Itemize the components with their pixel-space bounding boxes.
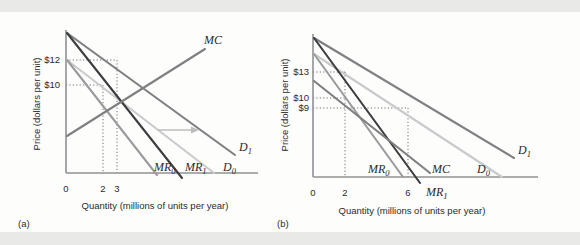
panel-a-label-d1: D1 <box>238 140 252 156</box>
panel-b-origin-label: 0 <box>310 187 315 198</box>
panel-a-xtick-0: 2 <box>100 183 105 194</box>
panel-a-shift-arrow <box>158 126 199 133</box>
panel-a-curve-mr1 <box>67 33 182 178</box>
panel-b-plot: $13 $10 $9 0 2 6 Price (dollars per unit… <box>290 12 580 232</box>
panel-b-label-mc: MC <box>431 162 451 176</box>
panel-a-x-axis-title: Quantity (millions of units per year) <box>82 200 229 211</box>
panel-b-curve-mr1 <box>314 38 420 183</box>
panel-a-label-d0: D0 <box>222 160 237 176</box>
panel-b-label-d1-base: D <box>517 143 527 157</box>
panel-a-label-mr0-base: MR <box>153 160 172 174</box>
panel-a-label-mr0: MR0 <box>153 160 176 176</box>
panel-b-guidelines <box>313 72 408 177</box>
panel-a-label-mr1: MR1 <box>184 160 207 176</box>
panel-b-ytick-2: $9 <box>298 102 309 113</box>
panel-b-label-d1: D1 <box>517 143 531 159</box>
panel-a-label-d0-sub: 0 <box>232 166 237 176</box>
panel-b-label-mr1-sub: 1 <box>443 191 447 201</box>
panel-b-xtick-0: 2 <box>342 187 347 198</box>
panel-b-xtick-1: 6 <box>405 187 410 198</box>
panel-b-label-mr1: MR1 <box>425 185 448 201</box>
panel-a-origin-label: 0 <box>63 183 68 194</box>
chart-panel-a: $12 $10 0 2 3 Price (dollars per unit) Q… <box>0 12 290 232</box>
panel-b-label-d0: D0 <box>476 162 491 178</box>
panel-b-ytick-0: $13 <box>293 66 309 77</box>
panel-a-y-axis-title: Price (dollars per unit) <box>31 58 42 151</box>
panel-b-letter: (b) <box>277 218 289 229</box>
panel-a-label-mc: MC <box>203 33 223 47</box>
panel-a-ytick-0: $12 <box>44 54 60 65</box>
panel-a-curve-mc <box>67 49 205 136</box>
panel-a-label-mr1-sub: 1 <box>202 166 206 176</box>
panel-a-letter: (a) <box>18 218 30 229</box>
panel-b-label-mr1-base: MR <box>425 185 444 199</box>
panel-b-label-mr0-base: MR <box>367 162 386 176</box>
panel-a-xtick-1: 3 <box>114 183 119 194</box>
panel-a-label-mr1-base: MR <box>184 160 203 174</box>
panel-b-y-axis-title: Price (dollars per unit) <box>279 59 290 152</box>
panel-b-curve-mc <box>314 81 430 173</box>
panel-a-label-d0-base: D <box>222 160 232 174</box>
panel-b-curve-d0 <box>314 54 502 177</box>
panel-a-curve-d0 <box>67 60 214 173</box>
panel-b-label-d1-sub: 1 <box>527 149 531 159</box>
figure-canvas: $12 $10 0 2 3 Price (dollars per unit) Q… <box>0 12 580 232</box>
panel-a-label-d1-base: D <box>238 140 248 154</box>
chart-panel-b: $13 $10 $9 0 2 6 Price (dollars per unit… <box>290 12 580 232</box>
panel-a-label-d1-sub: 1 <box>248 146 252 156</box>
panel-b-label-d0-base: D <box>476 162 486 176</box>
panel-a-curve-d1 <box>67 33 235 155</box>
panel-b-label-mr0: MR0 <box>367 162 390 178</box>
panel-a-ytick-1: $10 <box>44 79 60 90</box>
panel-a-plot: $12 $10 0 2 3 Price (dollars per unit) Q… <box>0 12 290 232</box>
panel-b-x-axis-title: Quantity (millions of units per year) <box>339 205 486 216</box>
panel-a-guidelines <box>66 60 117 173</box>
